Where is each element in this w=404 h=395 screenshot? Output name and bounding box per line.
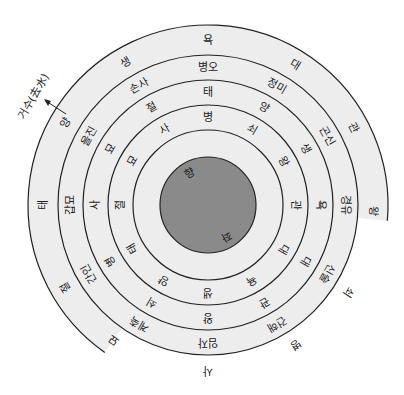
stage-ring-3-label: 생	[203, 286, 213, 299]
direction-ring-label: 경유	[339, 195, 352, 215]
stage-ring-3-label: 절	[114, 200, 127, 210]
stage-ring-2-label: 태	[203, 86, 213, 99]
outer-stage-ring-label: 욕	[203, 34, 213, 47]
core-circle	[160, 157, 256, 253]
outflow-water-label: 거수(去水)	[15, 71, 52, 121]
stage-ring-2-label: 왕	[203, 311, 213, 324]
rings-layer	[28, 25, 388, 355]
stage-ring-3-label: 병	[203, 111, 213, 124]
stage-ring-3-label: 관	[289, 200, 302, 210]
outer-stage-ring-label: 사	[203, 364, 213, 377]
stage-ring-2-label: 사	[89, 200, 102, 210]
outer-stage-ring-label: 태	[37, 200, 50, 210]
feng-shui-ring-diagram: 욕대관왕쇠병사묘절태양생병오정미곤신경유신술건해임자계축간인갑묘을진손사태양생욕…	[0, 0, 404, 395]
direction-ring-label: 임자	[198, 336, 218, 349]
arrowhead-icon	[44, 99, 51, 106]
ring-diagram-svg: 욕대관왕쇠병사묘절태양생병오정미곤신경유신술건해임자계축간인갑묘을진손사태양생욕…	[0, 0, 404, 395]
direction-ring-label: 병오	[198, 61, 218, 74]
outer-stage-ring-label: 왕	[366, 206, 379, 216]
outer-stage-ring-label: 병	[288, 337, 303, 353]
direction-ring-label: 갑묘	[64, 195, 77, 215]
stage-ring-2-label: 욕	[314, 200, 327, 210]
outer-stage-ring-label: 쇠	[340, 285, 356, 300]
